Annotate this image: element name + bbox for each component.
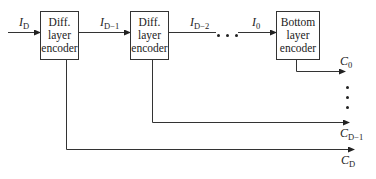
label-input-ID-2: ID−2 xyxy=(190,15,209,31)
box-line: encoder xyxy=(41,42,77,55)
box-line: encoder xyxy=(131,42,167,55)
box-line: layer xyxy=(287,29,310,42)
vertical-ellipsis-dot xyxy=(346,96,349,99)
label-sub: 0 xyxy=(256,21,260,31)
label-main: C xyxy=(340,54,348,68)
label-input-ID: ID xyxy=(19,15,29,31)
label-output-CD-1: CD−1 xyxy=(340,126,363,142)
label-sub: D−1 xyxy=(348,132,363,142)
box-line: encoder xyxy=(280,42,316,55)
vertical-ellipsis-dot xyxy=(346,106,349,109)
arrow-C0 xyxy=(297,59,346,72)
ellipsis-dot xyxy=(235,34,238,37)
label-sub: D−2 xyxy=(194,21,209,31)
box-line: Bottom xyxy=(281,16,316,29)
label-sub: D xyxy=(23,21,29,31)
arrow-CD xyxy=(67,59,355,150)
label-input-ID-1: ID−1 xyxy=(100,15,119,31)
ellipsis-dot xyxy=(217,34,220,37)
label-sub: D−1 xyxy=(104,21,119,31)
arrow-CD-1 xyxy=(153,59,350,123)
label-sub: D xyxy=(349,159,355,169)
diff-layer-encoder-box-2: Diff. layer encoder xyxy=(130,11,169,60)
box-line: Diff. xyxy=(139,16,161,29)
ellipsis-dot xyxy=(226,34,229,37)
bottom-layer-encoder-box: Bottom layer encoder xyxy=(276,11,320,60)
box-line: layer xyxy=(48,29,71,42)
label-output-C0: C0 xyxy=(340,54,352,70)
vertical-ellipsis-dot xyxy=(346,86,349,89)
box-line: Diff. xyxy=(49,16,71,29)
label-main: C xyxy=(340,126,348,140)
label-main: C xyxy=(341,153,349,167)
box-line: layer xyxy=(138,29,161,42)
diff-layer-encoder-box-1: Diff. layer encoder xyxy=(40,11,79,60)
label-sub: 0 xyxy=(348,60,352,70)
label-input-I0: I0 xyxy=(252,15,260,31)
label-output-CD: CD xyxy=(341,153,355,169)
